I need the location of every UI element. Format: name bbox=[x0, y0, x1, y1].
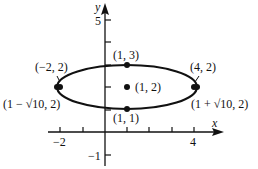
point-left-vertex bbox=[54, 84, 60, 90]
label-top-vertex: (1, 3) bbox=[113, 48, 139, 62]
label-left-vertex: (1 − √10, 2) bbox=[3, 97, 60, 111]
x-tick-label: 4 bbox=[190, 135, 196, 149]
point-right-vertex bbox=[194, 84, 200, 90]
y-tick-label: 5 bbox=[95, 14, 101, 28]
label-right-focus: (4, 2) bbox=[190, 60, 216, 74]
label-center: (1, 2) bbox=[135, 80, 161, 94]
label-right-vertex: (1 + √10, 2) bbox=[191, 97, 248, 111]
y-axis: 5 −1 y bbox=[88, 0, 111, 166]
y-tick-label: −1 bbox=[88, 149, 101, 163]
label-left-focus: (−2, 2) bbox=[35, 60, 68, 74]
ellipse-diagram: −2 4 x 5 −1 y (1, 2) (1, 3) (1, 1) (−2, … bbox=[0, 0, 258, 169]
point-center bbox=[124, 84, 130, 90]
label-bottom-vertex: (1, 1) bbox=[113, 111, 139, 125]
leader-right-focus bbox=[195, 76, 199, 82]
y-axis-label: y bbox=[94, 0, 101, 14]
point-top-vertex bbox=[124, 62, 130, 68]
x-axis-label: x bbox=[211, 116, 218, 130]
points bbox=[54, 62, 200, 112]
x-tick-label: −2 bbox=[53, 135, 66, 149]
